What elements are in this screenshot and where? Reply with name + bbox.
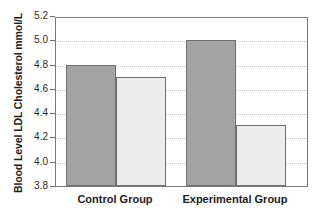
bar-control-group-after [116,77,166,186]
y-axis-tick-label: 4.8 [8,60,48,70]
bar-control-group-before [66,65,116,186]
gridline [56,41,307,42]
y-axis-tick-label: 4.6 [8,84,48,94]
y-axis-tick-label: 4.4 [8,108,48,118]
y-axis-tick-label: 4.2 [8,132,48,142]
x-axis-label-experimental-group: Experimental Group [155,193,315,205]
y-axis-tick-label: 5.0 [8,35,48,45]
y-axis-tick-label: 3.8 [8,181,48,191]
bar-chart: Blood Level LDL Cholesterol mmol/L 5.25.… [0,0,320,217]
bar-experimental-group-before [186,40,236,186]
y-axis-tick-label: 5.2 [8,11,48,21]
bar-experimental-group-after [236,125,286,186]
y-axis-tick-label: 4.0 [8,157,48,167]
plot-area [55,17,308,187]
